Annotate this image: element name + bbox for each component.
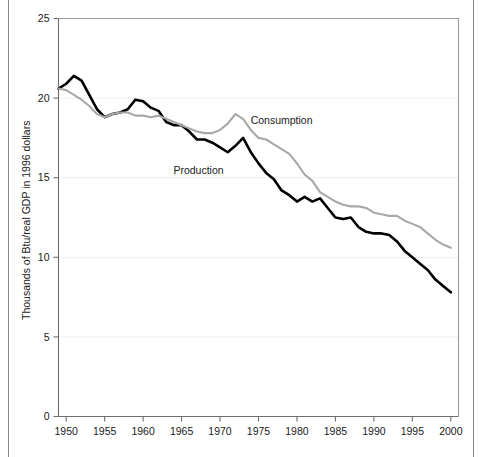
y-axis-ticks	[54, 19, 59, 417]
y-tick-label-10: 10	[38, 251, 50, 263]
y-tick-label-5: 5	[44, 331, 50, 343]
x-tick-label-2000: 2000	[439, 425, 463, 437]
series-annotations: ProductionConsumption	[173, 114, 312, 175]
x-tick-label-1970: 1970	[208, 425, 232, 437]
x-tick-label-1960: 1960	[131, 425, 155, 437]
chart-figure: 0510152025 19501955196019651970197519801…	[0, 0, 482, 457]
x-tick-label-1985: 1985	[324, 425, 348, 437]
x-axis-tick-labels: 1950195519601965197019751980198519901995…	[55, 425, 463, 437]
y-tick-label-0: 0	[44, 410, 50, 422]
y-tick-label-25: 25	[38, 12, 50, 24]
series-label-production: Production	[173, 164, 223, 176]
x-tick-label-1965: 1965	[170, 425, 194, 437]
x-tick-label-1980: 1980	[285, 425, 309, 437]
series-line-consumption	[59, 89, 451, 248]
y-axis-tick-labels: 0510152025	[38, 12, 50, 422]
x-tick-label-1955: 1955	[93, 425, 117, 437]
series-line-production	[59, 76, 451, 293]
y-axis-title: Thousands of Btu/real GDP in 1996 dollar…	[20, 121, 32, 320]
x-tick-label-1990: 1990	[362, 425, 386, 437]
y-tick-label-15: 15	[38, 171, 50, 183]
x-axis-ticks	[66, 417, 451, 422]
y-tick-label-20: 20	[38, 92, 50, 104]
x-tick-label-1950: 1950	[55, 425, 79, 437]
x-tick-label-1995: 1995	[401, 425, 425, 437]
x-tick-label-1975: 1975	[247, 425, 271, 437]
energy-intensity-line-chart: 0510152025 19501955196019651970197519801…	[0, 0, 482, 457]
series-label-consumption: Consumption	[251, 114, 313, 126]
series-lines	[59, 76, 451, 293]
